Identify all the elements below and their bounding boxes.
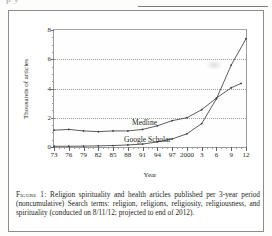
data-point bbox=[171, 120, 173, 122]
data-point bbox=[112, 145, 114, 147]
plot-area: 02468 737679828588919497200036912 Medlin… bbox=[53, 29, 247, 148]
data-point bbox=[201, 123, 203, 125]
figure-caption-label: Figure 1: bbox=[16, 190, 46, 199]
x-tick-label: 2000 bbox=[180, 152, 194, 159]
y-axis-title: Thousands of articles bbox=[21, 29, 31, 148]
y-tick-label: 8 bbox=[48, 27, 52, 34]
x-tick-label: 91 bbox=[139, 152, 146, 159]
x-minor-tick bbox=[88, 147, 89, 149]
x-minor-tick bbox=[241, 147, 242, 149]
x-minor-tick bbox=[162, 147, 163, 149]
series-label-google-scholar: Google Scholar bbox=[124, 135, 171, 144]
data-point bbox=[201, 109, 203, 111]
data-point bbox=[230, 64, 232, 66]
figure-caption-text: Religion spirituality and health article… bbox=[16, 190, 260, 217]
x-minor-tick bbox=[93, 147, 94, 149]
x-tick-label: 76 bbox=[65, 152, 72, 159]
data-point bbox=[216, 98, 218, 100]
x-minor-tick bbox=[59, 147, 60, 149]
x-tick-label: 12 bbox=[243, 152, 250, 159]
x-tick-label: 94 bbox=[154, 152, 161, 159]
data-point bbox=[171, 138, 173, 140]
x-minor-tick bbox=[123, 147, 124, 149]
data-point bbox=[83, 130, 85, 132]
data-point bbox=[68, 145, 70, 147]
x-minor-tick bbox=[212, 147, 213, 149]
x-minor-tick bbox=[74, 147, 75, 149]
series-lines bbox=[54, 30, 246, 147]
y-tick-label: 2 bbox=[48, 114, 52, 121]
x-tick-label: 97 bbox=[169, 152, 176, 159]
x-minor-tick bbox=[152, 147, 153, 149]
x-minor-tick bbox=[167, 147, 168, 149]
x-minor-tick bbox=[207, 147, 208, 149]
x-minor-tick bbox=[177, 147, 178, 149]
x-minor-tick bbox=[182, 147, 183, 149]
figure-box: Thousands of articles 02468 737679828588… bbox=[8, 10, 264, 232]
x-minor-tick bbox=[236, 147, 237, 149]
x-tick-label: 6 bbox=[215, 152, 219, 159]
x-minor-tick bbox=[221, 147, 222, 149]
x-minor-tick bbox=[133, 147, 134, 149]
x-tick-label: 79 bbox=[80, 152, 87, 159]
x-tick-label: 3 bbox=[200, 152, 204, 159]
figure-caption: Figure 1: Religion spirituality and heal… bbox=[16, 191, 260, 217]
chart: Thousands of articles 02468 737679828588… bbox=[9, 13, 263, 185]
scan-smudge-artifact bbox=[206, 60, 222, 70]
data-point bbox=[186, 133, 188, 135]
data-point bbox=[127, 130, 129, 132]
x-minor-tick bbox=[226, 147, 227, 149]
data-point bbox=[112, 130, 114, 132]
x-minor-tick bbox=[103, 147, 104, 149]
x-minor-tick bbox=[197, 147, 198, 149]
data-point bbox=[97, 131, 99, 133]
x-minor-tick bbox=[79, 147, 80, 149]
y-tick-label: 0 bbox=[48, 144, 52, 151]
cutoff-text-line: p y bbox=[0, 0, 272, 9]
data-point bbox=[97, 145, 99, 147]
data-point bbox=[142, 129, 144, 131]
x-axis-title: Year bbox=[53, 171, 247, 179]
data-point bbox=[240, 82, 242, 84]
y-tick-label: 6 bbox=[48, 56, 52, 63]
top-horizontal-rule bbox=[138, 6, 268, 7]
series-line-google-scholar bbox=[54, 39, 246, 147]
x-tick-label: 85 bbox=[110, 152, 117, 159]
series-label-medline: Medline bbox=[132, 118, 157, 127]
y-tick-label: 4 bbox=[48, 85, 52, 92]
data-point bbox=[53, 145, 55, 147]
x-minor-tick bbox=[138, 147, 139, 149]
x-tick-label: 73 bbox=[51, 152, 58, 159]
cutoff-text: p y bbox=[6, 0, 19, 4]
x-minor-tick bbox=[192, 147, 193, 149]
data-point bbox=[186, 117, 188, 119]
data-point bbox=[230, 87, 232, 89]
data-point bbox=[68, 129, 70, 131]
x-minor-tick bbox=[64, 147, 65, 149]
data-point bbox=[83, 145, 85, 147]
scanned-page: p y Thousands of articles 02468 73767982… bbox=[0, 0, 272, 236]
data-point bbox=[245, 38, 247, 40]
x-tick-label: 9 bbox=[229, 152, 233, 159]
x-minor-tick bbox=[148, 147, 149, 149]
data-point bbox=[127, 144, 129, 146]
x-tick-label: 88 bbox=[124, 152, 131, 159]
data-point bbox=[53, 129, 55, 131]
x-minor-tick bbox=[118, 147, 119, 149]
x-minor-tick bbox=[108, 147, 109, 149]
x-tick-label: 82 bbox=[95, 152, 102, 159]
